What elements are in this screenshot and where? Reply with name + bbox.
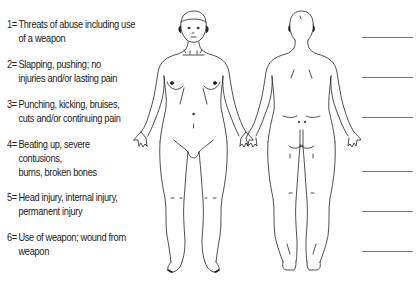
answer-blank-2[interactable] [362, 77, 413, 78]
answer-blank-1[interactable] [362, 37, 413, 38]
front-body-figure [134, 11, 253, 272]
answer-blank-4[interactable] [362, 171, 413, 172]
back-body-figure [246, 11, 361, 270]
answer-blank-3[interactable] [362, 117, 413, 118]
answer-blank-6[interactable] [362, 251, 413, 252]
answer-blank-5[interactable] [362, 211, 413, 212]
body-diagram [0, 0, 419, 286]
